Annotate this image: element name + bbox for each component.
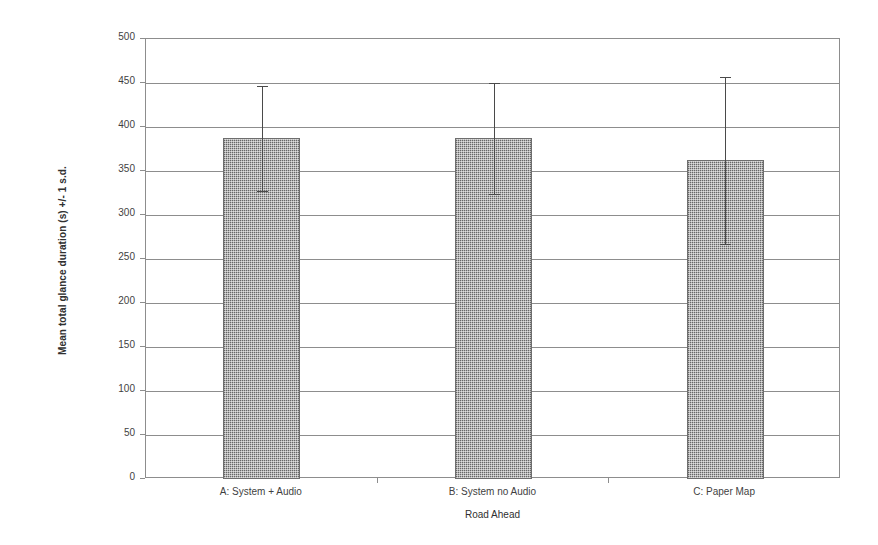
y-tick-mark bbox=[140, 302, 145, 303]
y-tick-mark bbox=[140, 38, 145, 39]
x-axis-title: Road Ahead bbox=[145, 509, 840, 520]
y-tick-mark bbox=[140, 346, 145, 347]
y-axis-title: Mean total glance duration (s) +/- 1 s.d… bbox=[57, 111, 68, 411]
y-tick-mark bbox=[140, 126, 145, 127]
y-tick-mark bbox=[140, 170, 145, 171]
y-tick-label: 500 bbox=[93, 31, 135, 42]
error-bar-cap-upper bbox=[489, 83, 500, 84]
y-tick-label: 150 bbox=[93, 339, 135, 350]
y-tick-label: 450 bbox=[93, 75, 135, 86]
error-bar-stem bbox=[494, 83, 495, 194]
y-tick-mark bbox=[140, 258, 145, 259]
error-bar-cap-lower bbox=[257, 191, 268, 192]
plot-area bbox=[145, 38, 840, 478]
gridline bbox=[146, 127, 839, 128]
y-tick-label: 400 bbox=[93, 119, 135, 130]
y-tick-label: 50 bbox=[93, 427, 135, 438]
error-bar-cap-lower bbox=[720, 244, 731, 245]
y-tick-mark bbox=[140, 390, 145, 391]
x-tick-mark bbox=[608, 478, 609, 483]
error-bar-stem bbox=[262, 86, 263, 192]
y-tick-label: 300 bbox=[93, 207, 135, 218]
y-tick-mark bbox=[140, 214, 145, 215]
x-tick-label: A: System + Audio bbox=[145, 486, 377, 497]
y-tick-label: 350 bbox=[93, 163, 135, 174]
x-tick-label: B: System no Audio bbox=[377, 486, 609, 497]
bar-chart: Mean total glance duration (s) +/- 1 s.d… bbox=[0, 0, 878, 545]
error-bar-cap-upper bbox=[257, 86, 268, 87]
x-tick-mark bbox=[377, 478, 378, 483]
error-bar-cap-upper bbox=[720, 77, 731, 78]
error-bar-stem bbox=[725, 77, 726, 244]
y-tick-label: 0 bbox=[93, 471, 135, 482]
y-tick-label: 100 bbox=[93, 383, 135, 394]
y-tick-label: 200 bbox=[93, 295, 135, 306]
x-tick-label: C: Paper Map bbox=[608, 486, 840, 497]
y-tick-mark bbox=[140, 478, 145, 479]
y-tick-mark bbox=[140, 434, 145, 435]
error-bar-cap-lower bbox=[489, 194, 500, 195]
y-tick-mark bbox=[140, 82, 145, 83]
y-tick-label: 250 bbox=[93, 251, 135, 262]
